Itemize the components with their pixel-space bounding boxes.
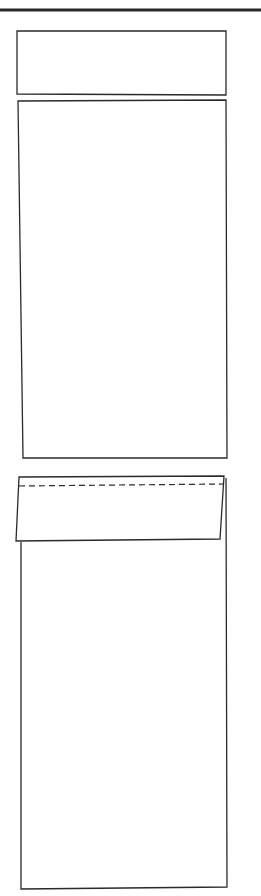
panel-middle bbox=[18, 100, 227, 458]
folding-diagram bbox=[0, 0, 261, 896]
panel-bottom-flap bbox=[16, 476, 224, 541]
panel-top bbox=[17, 31, 226, 95]
